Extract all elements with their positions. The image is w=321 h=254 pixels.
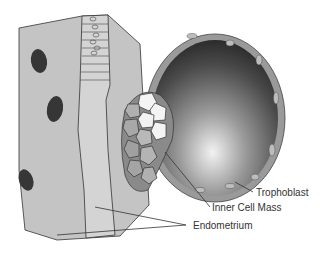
blastocyst-implantation-diagram (0, 0, 321, 254)
label-trophoblast: Trophoblast (256, 187, 308, 198)
label-inner-cell-mass: Inner Cell Mass (212, 202, 281, 213)
label-endometrium: Endometrium (193, 220, 252, 231)
blastocyst (122, 34, 286, 203)
